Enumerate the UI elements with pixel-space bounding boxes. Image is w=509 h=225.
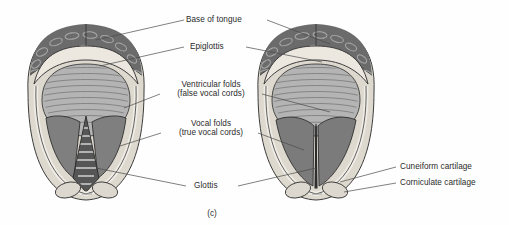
larynx-figure: Base of tongue Epiglottis Ventricular fo… [0, 0, 509, 225]
label-base-of-tongue: Base of tongue [186, 15, 242, 25]
label-cuneiform-cartilage: Cuneiform cartilage [400, 162, 472, 172]
larynx-view-closed [254, 18, 378, 201]
larynx-view-open [24, 18, 148, 201]
label-ventricular-folds-line2: (false vocal cords) [163, 89, 259, 99]
label-corniculate-cartilage: Corniculate cartilage [400, 178, 476, 188]
label-vocal-folds-line2: (true vocal cords) [163, 128, 259, 138]
label-glottis: Glottis [194, 181, 218, 191]
label-epiglottis: Epiglottis [190, 42, 224, 52]
leader-corniculate [344, 183, 396, 192]
larynx-illustration [0, 0, 509, 225]
figure-caption: (c) [182, 209, 242, 218]
